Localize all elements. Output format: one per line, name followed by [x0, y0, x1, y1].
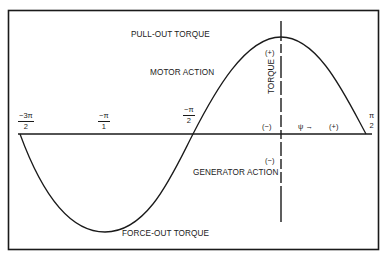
tick-numerator: −3π [18, 112, 34, 122]
tick-numerator: π [368, 112, 375, 121]
tick-minus-pi-over-2: −π 2 [183, 106, 195, 124]
tick-minus-3pi-over-2: −3π 2 [18, 112, 34, 130]
tick-numerator: −π [98, 112, 110, 122]
angle-positive-sign: (+) [329, 123, 338, 131]
generator-action-label: GENERATOR ACTION [193, 169, 278, 177]
psi-direction-label: ψ → [298, 123, 313, 131]
tick-minus-pi: −π 1 [98, 112, 110, 130]
motor-action-label: MOTOR ACTION [150, 69, 214, 77]
tick-numerator: −π [183, 106, 195, 116]
tick-denominator: 2 [370, 121, 374, 130]
tick-denominator: 2 [24, 122, 28, 131]
diagram-frame [9, 11, 379, 250]
pull-out-torque-label: PULL-OUT TORQUE [131, 31, 210, 39]
torque-axis-label: TORQUE [268, 59, 276, 94]
tick-denominator: 2 [187, 116, 191, 125]
angle-negative-sign: (−) [262, 123, 271, 131]
torque-positive-sign: (+) [265, 49, 274, 57]
tick-pi-over-2: π 2 [368, 112, 375, 129]
tick-denominator: 1 [102, 122, 106, 131]
force-out-torque-label: FORCE-OUT TORQUE [122, 230, 209, 238]
torque-negative-sign: (−) [265, 157, 274, 165]
